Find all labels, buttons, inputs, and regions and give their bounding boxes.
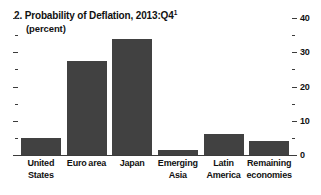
axis-tick-major-right-40 [292,18,297,19]
axis-tick-major-left-0 [13,155,18,156]
axis-tick-minor-right-5 [292,138,295,139]
bars-container [18,18,292,155]
axis-tick-major-right-10 [292,121,297,122]
x-axis-label-united-states: United States [15,158,67,181]
bar-remaining-economies [249,141,289,155]
x-axis-label-emerging-asia: Emerging Asia [152,158,204,181]
axis-tick-minor-right-35 [292,35,295,36]
bar-united-states [21,138,61,155]
zero-baseline [18,155,292,156]
x-axis-label-remaining-economies: Remaining economies [243,158,295,181]
x-axis-labels: United StatesEuro areaJapanEmerging Asia… [18,158,292,195]
axis-tick-major-right-20 [292,87,297,88]
bar-emerging-asia [158,150,198,155]
y-axis-label-40: 40 [300,13,310,23]
axis-tick-minor-right-25 [292,69,295,70]
x-axis-label-latin-america: Latin America [198,158,250,181]
axis-tick-major-right-30 [292,52,297,53]
x-axis-label-euro-area: Euro area [61,158,113,170]
bar-japan [112,39,152,155]
y-axis-label-10: 10 [300,116,310,126]
x-axis-label-japan: Japan [106,158,158,170]
y-axis-label-0: 0 [300,150,305,160]
axis-tick-major-right-0 [292,155,297,156]
bar-latin-america [204,134,244,155]
axis-tick-minor-right-15 [292,104,295,105]
bar-euro-area [67,61,107,155]
y-axis-label-20: 20 [300,82,310,92]
deflation-probability-chart: 2. Probability of Deflation, 2013:Q41 (p… [0,0,321,195]
footnote-marker: 1 [174,9,177,16]
y-axis-label-30: 30 [300,47,310,57]
